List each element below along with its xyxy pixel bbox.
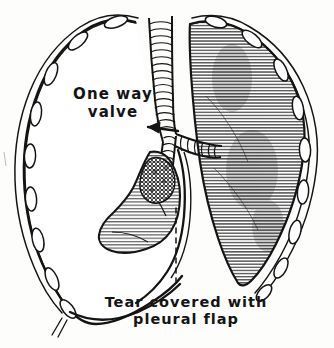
tear-caption-line1: Tear covered with bbox=[105, 294, 268, 310]
one-way-valve-label-line1: One way bbox=[73, 85, 153, 103]
one-way-valve-label-line2: valve bbox=[88, 103, 139, 121]
tear-caption-line2: pleural flap bbox=[133, 311, 239, 327]
tear-site bbox=[140, 157, 175, 203]
pneumothorax-diagram: One way valve Tear covered with pleural … bbox=[0, 0, 334, 348]
